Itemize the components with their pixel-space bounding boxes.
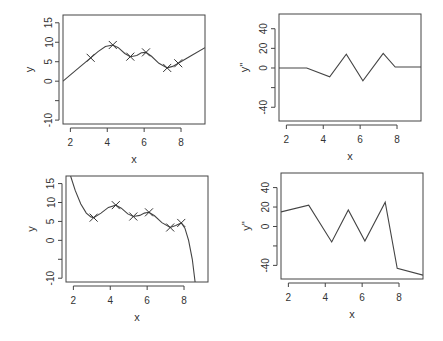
plot-frame <box>63 15 205 124</box>
x-tick-label: 8 <box>394 134 400 145</box>
x-marker-icon <box>90 214 98 222</box>
x-marker-icon <box>163 64 171 72</box>
y-tick-label: 40 <box>259 23 270 35</box>
fitted-curve <box>279 53 421 81</box>
y-tick-label: -40 <box>259 100 270 115</box>
x-tick-label: 4 <box>320 134 326 145</box>
y-axis-label: y <box>25 226 37 232</box>
x-marker-icon <box>87 54 95 62</box>
plot-frame <box>66 176 208 282</box>
x-axis-label: x <box>134 311 140 323</box>
y-tick-label: 10 <box>46 197 57 209</box>
y-axis-label: y'' <box>238 63 250 73</box>
x-marker-icon <box>109 41 117 49</box>
x-axis-label: x <box>349 308 355 320</box>
y-tick-label: -10 <box>46 271 57 286</box>
x-axis: 2468 <box>284 125 401 145</box>
figure-canvas: 2468x-10051015y 2468x-4002040y'' 2468x-1… <box>0 0 443 341</box>
fitted-curve <box>281 202 423 275</box>
x-marker-icon <box>177 219 185 227</box>
fitted-curve <box>71 176 196 282</box>
x-tick-label: 8 <box>181 295 187 306</box>
y-tick-label: 15 <box>46 178 57 190</box>
x-tick-label: 8 <box>396 292 402 303</box>
x-marker-icon <box>112 201 120 209</box>
panel-top-left: 2468x-10051015y <box>23 15 205 165</box>
x-tick-label: 2 <box>286 292 292 303</box>
y-tick-label: 0 <box>46 237 57 243</box>
y-axis-label: y'' <box>240 221 252 231</box>
x-axis-label: x <box>347 150 353 162</box>
y-tick-label: 15 <box>44 17 55 29</box>
y-tick-label: 5 <box>46 218 57 224</box>
y-axis: -10051015 <box>44 17 60 128</box>
y-axis: -4002040 <box>261 182 278 273</box>
y-tick-label: -10 <box>44 112 55 127</box>
x-tick-label: 6 <box>359 292 365 303</box>
y-tick-label: 0 <box>259 65 270 71</box>
x-axis: 2468 <box>68 128 185 148</box>
plot-frame <box>281 173 423 279</box>
y-tick-label: 5 <box>44 58 55 64</box>
y-axis: -10051015 <box>46 178 63 286</box>
y-axis: -4002040 <box>259 23 276 115</box>
x-tick-label: 2 <box>71 295 77 306</box>
y-axis-label: y <box>23 66 35 72</box>
figure-2x2-panels: 2468x-10051015y 2468x-4002040y'' 2468x-1… <box>0 0 443 341</box>
x-tick-label: 6 <box>357 134 363 145</box>
y-tick-label: 40 <box>261 182 272 194</box>
x-tick-label: 6 <box>141 137 147 148</box>
x-marker-icon <box>174 59 182 67</box>
x-tick-label: 2 <box>284 134 290 145</box>
x-tick-label: 2 <box>68 137 74 148</box>
y-tick-label: -40 <box>261 258 272 273</box>
panel-bottom-left: 2468x-10051015y <box>25 176 208 323</box>
y-tick-label: 0 <box>44 78 55 84</box>
x-marker-icon <box>166 223 174 231</box>
x-axis: 2468 <box>286 283 403 303</box>
y-tick-label: 10 <box>44 36 55 48</box>
y-tick-label: 20 <box>259 42 270 54</box>
y-tick-label: 20 <box>261 201 272 213</box>
panel-bottom-right: 2468x-4002040y'' <box>240 173 423 320</box>
panel-top-right: 2468x-4002040y'' <box>238 14 421 162</box>
x-tick-label: 4 <box>107 295 113 306</box>
x-tick-label: 4 <box>104 137 110 148</box>
x-axis: 2468 <box>71 286 188 306</box>
x-tick-label: 8 <box>178 137 184 148</box>
fitted-curve <box>63 45 205 81</box>
x-tick-label: 4 <box>322 292 328 303</box>
x-axis-label: x <box>131 153 137 165</box>
y-tick-label: 0 <box>261 223 272 229</box>
x-tick-label: 6 <box>144 295 150 306</box>
